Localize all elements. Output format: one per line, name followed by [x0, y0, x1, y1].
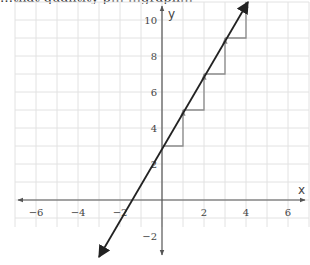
y-axis-label: y [168, 7, 175, 21]
x-tick-label: −4 [71, 207, 86, 218]
x-tick-label: −6 [29, 207, 44, 218]
y-tick-label: 8 [151, 51, 157, 62]
x-tick-label: 4 [243, 207, 249, 218]
x-tick-label: 6 [285, 207, 291, 218]
y-tick-label: 4 [151, 123, 157, 134]
x-tick-label: 2 [201, 207, 207, 218]
y-tick-label: 6 [151, 87, 157, 98]
y-tick-label: −2 [142, 231, 157, 242]
line-y-equals-2x-plus-3 [99, 2, 248, 257]
x-axis-label: x [298, 183, 305, 197]
coordinate-plane: xy−6−4−2246−2246810 [0, 0, 310, 265]
y-tick-label: 10 [144, 15, 157, 26]
